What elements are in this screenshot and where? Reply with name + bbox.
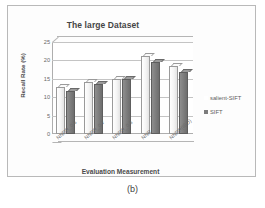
bar-salient-sift-2[interactable]: [112, 79, 121, 134]
bar-group: [108, 42, 136, 134]
legend: salient-SIFTSIFT: [204, 94, 262, 122]
legend-label: SIFT: [210, 109, 223, 115]
y-axis-title: Recall Rate (%): [19, 46, 26, 106]
bar-group: [137, 42, 165, 134]
y-tick-5: 5: [34, 113, 50, 119]
bar-top-cap: [68, 88, 80, 91]
x-axis-title: Evaluation Measurement: [38, 168, 203, 175]
bar-group: [52, 42, 80, 134]
bar-top-cap: [171, 63, 183, 66]
chart-title: The large Dataset: [8, 20, 198, 30]
legend-item-salient-sift[interactable]: salient-SIFT: [204, 94, 262, 102]
y-tick-25: 25: [34, 39, 50, 45]
y-axis-tick-labels: 0510152025: [30, 36, 50, 142]
legend-swatch: [204, 96, 208, 100]
y-tick-20: 20: [34, 57, 50, 63]
bar-salient-sift-3[interactable]: [141, 56, 150, 134]
bar-top-cap: [143, 53, 155, 56]
legend-label: salient-SIFT: [210, 95, 241, 101]
bar-sift-3[interactable]: [151, 62, 160, 134]
legend-item-sift[interactable]: SIFT: [204, 108, 262, 116]
chart-frame: The large Dataset Recall Rate (%) 051015…: [7, 5, 256, 177]
bar-group: [80, 42, 108, 134]
x-axis-tick-labels: NNDR_0.6NNDR_0.7NNDR_0.8NNRNNDR(ISO): [52, 136, 202, 170]
bar-top-cap: [86, 79, 98, 82]
y-tick-0: 0: [34, 131, 50, 137]
bar-face: [151, 62, 160, 134]
y-tick-10: 10: [34, 94, 50, 100]
bar-face: [141, 56, 150, 134]
bar-face: [169, 66, 178, 134]
bar-face: [112, 79, 121, 134]
bar-top-cap: [124, 76, 136, 79]
bar-salient-sift-4[interactable]: [169, 66, 178, 134]
bar-top-cap: [58, 84, 70, 87]
bar-top-cap: [96, 81, 108, 84]
bar-top-cap: [153, 59, 165, 62]
figure-caption: (b): [0, 184, 265, 194]
y-tick-15: 15: [34, 76, 50, 82]
legend-swatch: [204, 110, 208, 114]
bar-top-cap: [181, 69, 193, 72]
figure-container: The large Dataset Recall Rate (%) 051015…: [0, 0, 265, 208]
